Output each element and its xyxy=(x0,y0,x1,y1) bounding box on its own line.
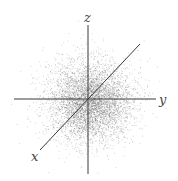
x-axis-line xyxy=(40,44,140,150)
y-axis-label: y xyxy=(158,92,167,107)
x-axis-label: x xyxy=(31,149,39,164)
point-cloud-diagram: z y x xyxy=(0,0,178,181)
z-axis-label: z xyxy=(83,10,91,25)
